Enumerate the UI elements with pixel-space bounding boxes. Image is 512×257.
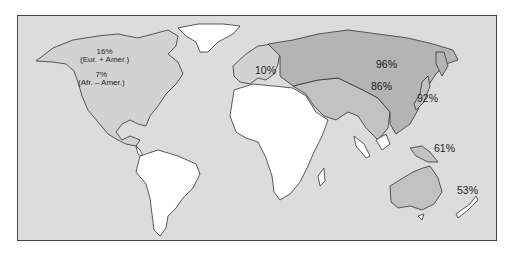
madagascar xyxy=(318,168,325,186)
corner-mark: ·· xyxy=(2,14,6,20)
australia xyxy=(390,166,442,210)
sumatra xyxy=(354,136,370,158)
tasmania xyxy=(418,214,424,220)
group-text: (Afr. – Amer.) xyxy=(78,79,125,87)
label-japan: 92% xyxy=(417,92,438,104)
label-north-america-eur: 16% (Eur. + Amer.) xyxy=(80,48,129,64)
label-north-america-afr: 7% (Afr. – Amer.) xyxy=(78,71,125,87)
world-map: 16% (Eur. + Amer.) 7% (Afr. – Amer.) 10%… xyxy=(17,15,497,241)
label-china: 86% xyxy=(371,80,392,92)
label-europe: 10% xyxy=(255,64,276,76)
label-siberia: 96% xyxy=(376,58,397,70)
label-australia: 53% xyxy=(457,184,478,196)
south-america xyxy=(136,150,200,236)
new-zealand xyxy=(456,196,478,218)
greenland xyxy=(178,24,240,52)
label-new-guinea: 61% xyxy=(434,142,455,154)
group-text: (Eur. + Amer.) xyxy=(80,56,129,64)
